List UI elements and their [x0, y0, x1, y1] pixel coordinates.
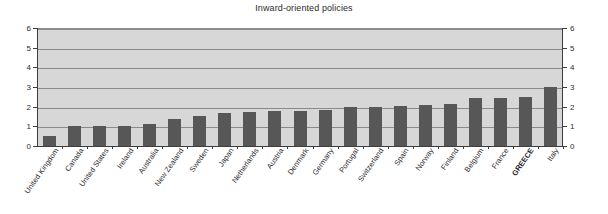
x-axis-label: Denmark — [287, 147, 311, 177]
bar[interactable] — [118, 126, 131, 146]
x-tick-mark — [62, 146, 63, 149]
bar[interactable] — [218, 113, 231, 146]
bar[interactable] — [469, 98, 482, 146]
x-axis-label: Sweden — [188, 147, 210, 174]
y-tick-mark-right — [563, 126, 567, 127]
y-tick-mark-left — [33, 126, 37, 127]
y-tick-mark-left — [33, 107, 37, 108]
x-tick-mark — [463, 146, 464, 149]
bar[interactable] — [494, 98, 507, 146]
chart-title: Inward-oriented policies — [0, 3, 608, 13]
x-tick-mark — [563, 146, 564, 149]
bar[interactable] — [294, 111, 307, 146]
x-axis-label: Japan — [217, 147, 235, 168]
x-axis-label: Switzerland — [357, 147, 386, 183]
x-tick-mark — [338, 146, 339, 149]
bar[interactable] — [419, 105, 432, 146]
x-tick-mark — [438, 146, 439, 149]
y-tick-label-right: 6 — [570, 24, 596, 33]
bar[interactable] — [168, 119, 181, 146]
bar[interactable] — [243, 112, 256, 146]
y-tick-label-left: 2 — [5, 103, 31, 112]
bar[interactable] — [369, 107, 382, 146]
x-axis-label: France — [491, 147, 511, 171]
y-tick-mark-left — [33, 48, 37, 49]
x-tick-mark — [212, 146, 213, 149]
x-axis-label: Australia — [137, 147, 160, 175]
bar[interactable] — [93, 126, 106, 146]
x-tick-mark — [313, 146, 314, 149]
y-tick-mark-right — [563, 107, 567, 108]
y-tick-label-left: 6 — [5, 24, 31, 33]
bar[interactable] — [394, 106, 407, 146]
bar[interactable] — [319, 110, 332, 146]
y-tick-mark-right — [563, 87, 567, 88]
y-tick-label-left: 1 — [5, 122, 31, 131]
x-axis-label: Netherlands — [231, 147, 261, 185]
x-axis-label: Germany — [311, 147, 335, 177]
y-tick-mark-right — [563, 67, 567, 68]
x-axis-label: Canada — [63, 147, 85, 173]
bars-layer — [37, 28, 563, 146]
bar[interactable] — [444, 104, 457, 146]
bar[interactable] — [68, 126, 81, 146]
bar[interactable] — [268, 111, 281, 146]
x-tick-mark — [488, 146, 489, 149]
x-tick-mark — [287, 146, 288, 149]
x-axis-label: Spain — [393, 147, 411, 167]
y-tick-label-right: 5 — [570, 44, 596, 53]
x-tick-mark — [388, 146, 389, 149]
x-axis-label: GREECE — [511, 147, 536, 178]
y-tick-mark-right — [563, 48, 567, 49]
x-tick-mark — [162, 146, 163, 149]
x-axis-label: Austria — [266, 147, 286, 171]
x-tick-mark — [413, 146, 414, 149]
y-tick-label-right: 3 — [570, 83, 596, 92]
x-axis-label: Portugal — [338, 147, 361, 174]
bar[interactable] — [43, 136, 56, 146]
x-tick-mark — [363, 146, 364, 149]
y-tick-mark-left — [33, 87, 37, 88]
bar[interactable] — [519, 97, 532, 146]
y-tick-label-left: 5 — [5, 44, 31, 53]
bar[interactable] — [344, 107, 357, 146]
bar[interactable] — [544, 87, 557, 146]
x-tick-mark — [112, 146, 113, 149]
y-tick-mark-right — [563, 28, 567, 29]
x-tick-mark — [513, 146, 514, 149]
x-axis-label: Italy — [547, 147, 561, 163]
y-tick-label-left: 4 — [5, 63, 31, 72]
y-tick-mark-left — [33, 28, 37, 29]
x-axis-labels: United KingdomCanadaUnited StatesIreland… — [0, 147, 608, 214]
y-tick-label-right: 4 — [570, 63, 596, 72]
chart-container: Inward-oriented policies 00112233445566 … — [0, 0, 608, 214]
y-tick-mark-left — [33, 67, 37, 68]
x-tick-mark — [137, 146, 138, 149]
bar[interactable] — [193, 116, 206, 146]
bar[interactable] — [143, 124, 156, 146]
x-axis-label: Ireland — [115, 147, 135, 170]
x-tick-mark — [87, 146, 88, 149]
y-tick-label-right: 1 — [570, 122, 596, 131]
x-tick-mark — [187, 146, 188, 149]
x-tick-mark — [262, 146, 263, 149]
x-tick-mark — [538, 146, 539, 149]
x-axis-label: Norway — [415, 147, 436, 172]
x-axis-label: Belgium — [464, 147, 486, 174]
x-axis-label: Finland — [440, 147, 461, 172]
y-tick-label-right: 2 — [570, 103, 596, 112]
x-axis-label: United Kingdom — [23, 147, 60, 195]
x-tick-mark — [237, 146, 238, 149]
y-tick-label-left: 3 — [5, 83, 31, 92]
